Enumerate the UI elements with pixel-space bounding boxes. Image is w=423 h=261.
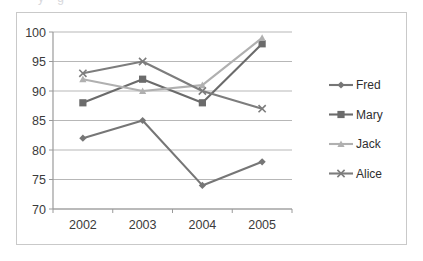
y-tick-label-95: 95: [32, 55, 46, 69]
legend-label-mary: Mary: [356, 108, 383, 122]
cropped-text-sliver: y g: [0, 0, 423, 7]
y-tick-label-80: 80: [32, 144, 46, 158]
y-tick-label-70: 70: [32, 203, 46, 217]
y-tick-label-90: 90: [32, 85, 46, 99]
line-chart: 100 95 90 85 80 75 70 2002 2003 2004 200…: [17, 13, 406, 244]
cropped-text: y g: [38, 0, 69, 5]
chart-legend[interactable]: FredMaryJackAlice: [329, 78, 383, 181]
y-tick-label-100: 100: [25, 26, 46, 40]
legend-item-mary[interactable]: Mary: [329, 108, 383, 122]
x-axis-ticks: [53, 209, 292, 213]
data-point-square: [79, 99, 86, 106]
x-tick-label-2003: 2003: [129, 218, 157, 232]
y-tick-label-85: 85: [32, 114, 46, 128]
legend-label-alice: Alice: [356, 167, 382, 181]
data-point-square: [259, 40, 266, 47]
data-point-diamond: [337, 81, 344, 88]
data-point-square: [139, 76, 146, 83]
legend-item-fred[interactable]: Fred: [329, 78, 381, 92]
legend-label-jack: Jack: [356, 137, 382, 151]
x-tick-label-2005: 2005: [248, 218, 276, 232]
legend-label-fred: Fred: [356, 78, 381, 92]
x-tick-label-2004: 2004: [188, 218, 216, 232]
data-point-square: [199, 99, 206, 106]
legend-item-jack[interactable]: Jack: [329, 137, 382, 151]
x-tick-label-2002: 2002: [69, 218, 97, 232]
legend-item-alice[interactable]: Alice: [329, 167, 382, 181]
data-point-square: [337, 111, 344, 118]
chart-frame: 100 95 90 85 80 75 70 2002 2003 2004 200…: [16, 12, 407, 245]
y-tick-label-75: 75: [32, 173, 46, 187]
